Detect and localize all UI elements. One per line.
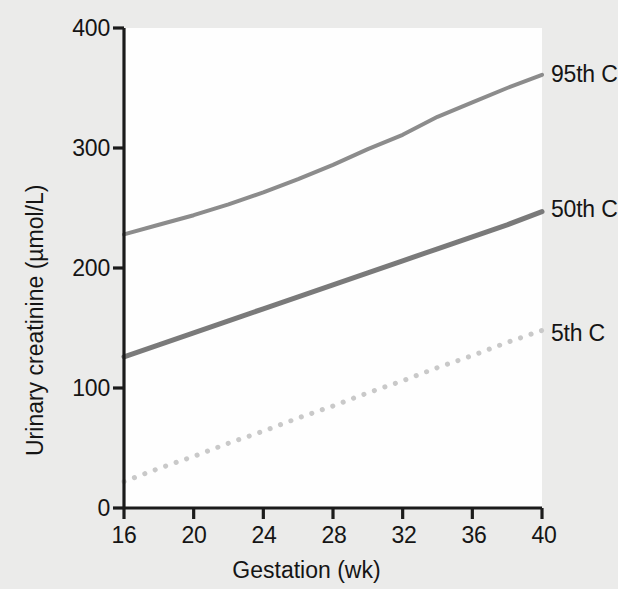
- x-tick-label-16: 16: [111, 522, 136, 549]
- series-label-95th: 95th C: [551, 61, 618, 88]
- y-tick-label-0: 0: [38, 495, 110, 522]
- series-label-50th: 50th C: [551, 196, 618, 223]
- series-line-50th-c: [124, 212, 542, 357]
- y-axis-title: Urinary creatinine (µmol/L): [22, 185, 49, 456]
- data-series-layer: [124, 75, 542, 482]
- x-tick-label-36: 36: [461, 522, 486, 549]
- x-tick-label-32: 32: [391, 522, 416, 549]
- series-label-5th: 5th C: [551, 320, 605, 347]
- y-tick-label-300: 300: [38, 135, 110, 162]
- y-tick-label-400: 400: [38, 15, 110, 42]
- x-axis-title: Gestation (wk): [0, 557, 613, 584]
- x-tick-label-20: 20: [181, 522, 206, 549]
- x-tick-label-24: 24: [251, 522, 276, 549]
- x-tick-label-40: 40: [531, 522, 556, 549]
- x-tick-label-28: 28: [321, 522, 346, 549]
- series-line-95th-c: [124, 75, 542, 235]
- series-line-5th-c: [124, 330, 542, 481]
